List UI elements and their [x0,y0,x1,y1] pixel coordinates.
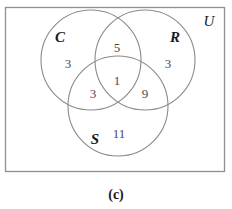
set-s-circle[interactable] [68,56,168,156]
universal-set-label: U [204,13,216,29]
region-count-c-and-r: 5 [114,40,121,55]
region-count-s-only: 11 [113,126,126,141]
universal-set-rectangle [6,8,225,172]
set-s-label: S [91,131,99,147]
set-c-label: C [55,29,66,45]
region-count-r-and-s: 9 [142,86,149,101]
region-count-c-r-and-s: 1 [114,73,121,88]
figure-caption: (c) [108,187,124,203]
venn-diagram-canvas: U C R S 3 3 5 3 9 1 11 (c) [0,0,232,209]
region-count-r-only: 3 [165,56,172,71]
venn-diagram-figure: U C R S 3 3 5 3 9 1 11 (c) [0,0,232,209]
region-count-c-only: 3 [65,56,72,71]
set-r-label: R [169,29,180,45]
region-count-c-and-s: 3 [90,86,97,101]
